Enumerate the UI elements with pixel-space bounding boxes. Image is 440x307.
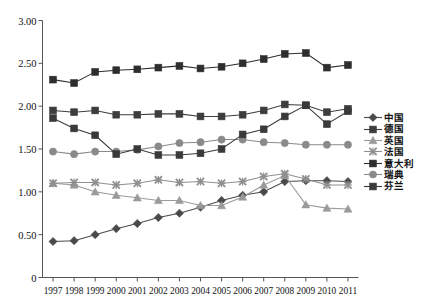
data-point-marker — [134, 146, 141, 153]
data-point-marker — [155, 152, 162, 159]
data-point-marker — [369, 148, 377, 156]
legend-marker-square-icon — [363, 158, 383, 169]
data-point-marker — [50, 76, 57, 83]
chart-legend: 中国德国英国法国意大利瑞典芬兰 — [363, 112, 439, 192]
data-point-marker — [239, 131, 246, 138]
data-point-marker — [302, 50, 309, 57]
data-point-marker — [323, 181, 331, 189]
data-point-marker — [50, 115, 57, 122]
legend-marker-square-icon — [363, 124, 383, 135]
data-point-marker — [345, 108, 352, 115]
legend-marker-square-icon — [363, 181, 383, 192]
data-point-marker — [71, 151, 78, 158]
data-point-marker — [49, 179, 57, 187]
data-point-marker — [281, 51, 288, 58]
legend-item-label: 瑞典 — [383, 169, 404, 180]
data-point-marker — [197, 139, 204, 146]
data-point-marker — [344, 141, 351, 148]
data-point-marker — [218, 179, 226, 187]
legend-item-label: 意大利 — [383, 158, 413, 169]
data-point-marker — [92, 69, 99, 76]
data-point-marker — [91, 179, 99, 187]
y-axis-tick-label: 2.00 — [18, 101, 36, 112]
legend-item: 法国 — [363, 146, 439, 157]
data-point-marker — [239, 178, 247, 186]
legend-item: 芬兰 — [363, 180, 439, 191]
legend-item: 意大利 — [363, 158, 439, 169]
y-axis-tick-label: 1.50 — [18, 144, 36, 155]
line-chart: 00.501.001.502.002.503.00199719981999200… — [0, 0, 440, 307]
data-point-marker — [155, 143, 162, 150]
data-point-marker — [112, 181, 120, 189]
data-point-marker — [154, 176, 162, 184]
data-point-marker — [260, 173, 268, 181]
data-point-marker — [92, 132, 99, 139]
legend-marker-diamond-icon — [363, 112, 383, 123]
legend-item-label: 法国 — [383, 146, 404, 157]
data-point-marker — [260, 56, 267, 63]
data-point-marker — [260, 107, 267, 114]
data-point-marker — [197, 178, 205, 186]
data-point-marker — [154, 213, 162, 221]
data-point-marker — [133, 219, 141, 227]
data-point-marker — [369, 171, 376, 178]
data-point-marker — [260, 188, 268, 196]
data-point-marker — [239, 60, 246, 67]
data-point-marker — [134, 66, 141, 73]
data-point-marker — [134, 111, 141, 118]
data-point-marker — [260, 126, 267, 133]
legend-item: 中国 — [363, 112, 439, 123]
legend-item-label: 中国 — [383, 112, 404, 123]
data-point-marker — [370, 183, 377, 190]
data-point-marker — [155, 110, 162, 117]
y-axis-tick-label: 1.00 — [18, 187, 36, 198]
data-point-marker — [302, 175, 310, 183]
data-point-marker — [176, 110, 183, 117]
data-point-marker — [92, 148, 99, 155]
data-point-marker — [176, 179, 184, 187]
legend-item: 德国 — [363, 123, 439, 134]
data-point-marker — [218, 63, 225, 70]
data-point-marker — [112, 225, 120, 233]
data-point-marker — [324, 121, 331, 128]
legend-item: 英国 — [363, 135, 439, 146]
y-axis-tick-label: 0 — [31, 273, 36, 284]
data-point-marker — [113, 67, 120, 74]
data-point-marker — [176, 139, 183, 146]
data-point-marker — [324, 109, 331, 116]
data-point-marker — [49, 148, 56, 155]
data-point-marker — [155, 64, 162, 71]
data-point-marker — [260, 181, 268, 188]
data-point-marker — [70, 237, 78, 245]
data-point-marker — [92, 107, 99, 114]
data-point-marker — [302, 102, 309, 109]
legend-marker-circle-icon — [363, 169, 383, 180]
legend-item-label: 英国 — [383, 135, 404, 146]
data-point-marker — [113, 111, 120, 118]
legend-item-label: 芬兰 — [383, 180, 404, 191]
legend-marker-x-icon — [363, 146, 383, 157]
data-point-marker — [176, 152, 183, 159]
data-point-marker — [218, 136, 225, 143]
data-point-marker — [369, 114, 377, 122]
data-point-marker — [133, 179, 141, 187]
data-point-marker — [197, 150, 204, 157]
data-point-marker — [281, 101, 288, 108]
data-point-marker — [302, 141, 309, 148]
data-point-marker — [345, 62, 352, 69]
data-point-marker — [302, 201, 310, 208]
data-point-marker — [281, 170, 289, 178]
data-point-marker — [281, 113, 288, 120]
data-point-marker — [370, 126, 377, 133]
legend-item: 瑞典 — [363, 169, 439, 180]
data-point-marker — [218, 146, 225, 153]
data-point-marker — [113, 151, 120, 158]
data-point-marker — [218, 113, 225, 120]
data-point-marker — [344, 181, 352, 189]
data-point-marker — [176, 63, 183, 70]
data-point-marker — [260, 139, 267, 146]
chart-series — [49, 170, 352, 189]
legend-item-label: 德国 — [383, 123, 404, 134]
chart-series — [50, 50, 352, 87]
data-point-marker — [197, 113, 204, 120]
